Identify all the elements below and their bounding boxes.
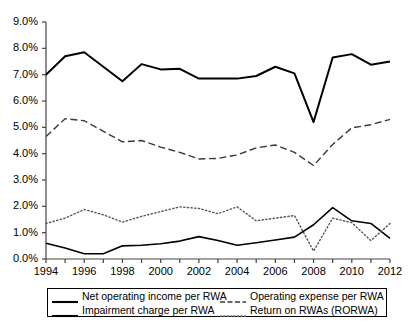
legend-entry[interactable]: Operating expense per RWA — [216, 291, 388, 302]
data-series-group — [46, 52, 390, 253]
series-line-1 — [46, 119, 390, 166]
y-axis-tick-label: 6.0% — [0, 95, 38, 106]
legend-entry[interactable]: Impairment charge per RWA — [48, 305, 216, 316]
x-axis-tick-label: 2012 — [370, 266, 410, 277]
legend-entry-label: Net operating income per RWA — [82, 291, 227, 302]
axes — [42, 22, 390, 263]
y-axis-tick-label: 1.0% — [0, 227, 38, 238]
series-line-2 — [46, 208, 390, 254]
legend-line-swatch-icon — [52, 306, 78, 314]
legend-entry-label: Return on RWAs (RORWA) — [250, 305, 378, 316]
x-axis-tick-label: 2002 — [179, 266, 219, 277]
legend-entry-label: Impairment charge per RWA — [82, 305, 214, 316]
x-axis-tick-label: 2000 — [141, 266, 181, 277]
legend-entry-label: Operating expense per RWA — [250, 291, 384, 302]
chart-figure: 0.0%1.0%2.0%3.0%4.0%5.0%6.0%7.0%8.0%9.0%… — [0, 0, 410, 327]
x-axis-tick-label: 1998 — [102, 266, 142, 277]
legend-entry[interactable]: Net operating income per RWA — [48, 291, 216, 302]
chart-plot-area — [0, 0, 410, 327]
y-axis-tick-label: 4.0% — [0, 148, 38, 159]
y-axis-tick-label: 0.0% — [0, 253, 38, 264]
series-line-3 — [46, 207, 390, 251]
legend-line-swatch-icon — [220, 306, 246, 314]
chart-legend: Net operating income per RWAOperating ex… — [47, 288, 387, 317]
x-axis-tick-label: 1996 — [64, 266, 104, 277]
x-axis-tick-label: 2006 — [255, 266, 295, 277]
y-axis-tick-label: 5.0% — [0, 121, 38, 132]
y-axis-tick-label: 9.0% — [0, 16, 38, 27]
y-axis-tick-label: 2.0% — [0, 200, 38, 211]
y-axis-tick-label: 7.0% — [0, 69, 38, 80]
legend-line-swatch-icon — [220, 292, 246, 300]
x-axis-tick-label: 1994 — [26, 266, 66, 277]
x-axis-tick-label: 2010 — [332, 266, 372, 277]
legend-entry[interactable]: Return on RWAs (RORWA) — [216, 305, 388, 316]
y-axis-tick-label: 8.0% — [0, 42, 38, 53]
x-axis-tick-label: 2008 — [294, 266, 334, 277]
y-axis-tick-label: 3.0% — [0, 174, 38, 185]
series-line-0 — [46, 52, 390, 122]
legend-line-swatch-icon — [52, 292, 78, 300]
x-axis-tick-label: 2004 — [217, 266, 257, 277]
